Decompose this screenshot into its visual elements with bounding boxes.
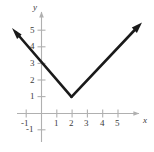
x-tick-label-2: 2	[69, 119, 74, 128]
y-tick-label-2: 2	[30, 76, 35, 85]
y-tick-label-5: 5	[30, 26, 35, 35]
x-tick-label-5: 5	[115, 119, 120, 128]
x-tick-label-3: 3	[84, 119, 89, 128]
x-tick-label-1: 1	[54, 119, 59, 128]
y-tick-label-4: 4	[30, 42, 35, 51]
y-tick-label-1: 1	[30, 92, 35, 101]
coordinate-plane	[0, 0, 154, 152]
graph-figure: y x 5 4 3 2 1 -1 -1 1 2 3 4 5	[0, 0, 154, 152]
x-axis-label: x	[143, 116, 147, 125]
x-tick-label-neg1: -1	[21, 119, 29, 128]
x-tick-label-4: 4	[100, 119, 105, 128]
y-tick-label-3: 3	[30, 59, 35, 68]
y-axis-label: y	[33, 3, 37, 12]
